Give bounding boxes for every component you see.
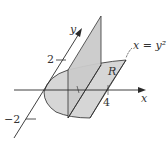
diagram-canvas: [0, 0, 168, 144]
x-axis-label: x: [141, 93, 147, 104]
y-axis-label: y: [70, 24, 76, 35]
curve-label: x = y²: [133, 40, 166, 51]
tick-label-y2: 2: [47, 54, 54, 65]
tick-label-x4: 4: [103, 97, 110, 108]
curve-leader: [126, 48, 132, 58]
tick-label-yneg2: −2: [4, 114, 20, 125]
region-label: R: [108, 66, 116, 77]
